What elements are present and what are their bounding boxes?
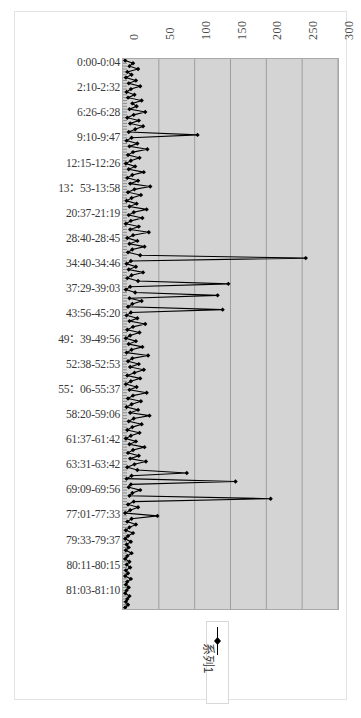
data-point-marker (133, 290, 137, 294)
chart-plot-svg (123, 59, 338, 609)
data-point-marker (125, 116, 129, 120)
data-point-marker (132, 462, 136, 466)
category-axis-tick: 0:00-0:04 (77, 57, 120, 68)
data-point-marker (123, 511, 127, 515)
category-axis-tick: 37:29-39:03 (66, 283, 120, 294)
data-point-marker (131, 150, 135, 154)
data-point-marker (134, 339, 138, 343)
data-point-marker (129, 219, 133, 223)
data-point-marker (185, 471, 189, 475)
data-point-marker (140, 345, 144, 349)
data-point-marker (124, 476, 128, 480)
value-axis-top: 050100150200250300 (0, 0, 361, 44)
data-point-marker (142, 170, 146, 174)
data-point-marker (146, 353, 150, 357)
data-point-marker (134, 522, 138, 526)
value-axis-tick: 200 (270, 21, 285, 41)
data-point-marker (128, 121, 132, 125)
data-point-marker (123, 59, 127, 63)
data-point-marker (136, 505, 140, 509)
data-point-marker (128, 456, 132, 460)
data-point-marker (129, 158, 133, 162)
data-point-marker (127, 144, 131, 148)
data-point-marker (135, 316, 139, 320)
category-axis-tick: 79:33-79:37 (66, 535, 120, 546)
data-point-marker (124, 138, 128, 142)
data-point-marker (138, 488, 142, 492)
data-point-marker (127, 388, 131, 392)
data-point-marker (137, 362, 141, 366)
data-point-marker (129, 196, 133, 200)
data-point-marker (134, 201, 138, 205)
category-axis-tick: 61:37-61:42 (66, 434, 120, 445)
data-point-marker (220, 307, 224, 311)
data-point-marker (141, 124, 145, 128)
data-point-marker (127, 267, 131, 271)
data-point-marker (137, 454, 141, 458)
category-axis-tick: 20:37-21:19 (66, 208, 120, 219)
data-point-marker (124, 75, 128, 79)
legend-series-label: 系列1 (201, 643, 218, 674)
data-point-marker (124, 161, 128, 165)
category-axis-tick: 49：39-49:56 (58, 334, 120, 345)
data-point-marker (128, 181, 132, 185)
data-point-marker (127, 342, 131, 346)
data-point-marker (195, 133, 199, 137)
data-point-marker (143, 110, 147, 114)
data-point-marker (137, 224, 141, 228)
data-point-marker (131, 325, 135, 329)
data-point-marker (127, 130, 131, 134)
data-point-marker (131, 393, 135, 397)
category-axis-tick: 58:20-59:06 (66, 409, 120, 420)
data-point-marker (136, 179, 140, 183)
data-point-marker (131, 233, 135, 237)
data-point-marker (125, 465, 129, 469)
data-point-marker (135, 239, 139, 243)
data-point-marker (233, 479, 237, 483)
data-point-marker (129, 348, 133, 352)
category-axis-tick: 55：06-55:37 (58, 384, 120, 395)
data-point-marker (125, 236, 129, 240)
category-axis-tick: 9:10-9:47 (77, 132, 120, 143)
data-point-marker (131, 448, 135, 452)
data-point-marker (130, 425, 134, 429)
data-point-marker (132, 113, 136, 117)
category-axis-tick: 28:40-28:45 (66, 233, 120, 244)
data-point-marker (127, 442, 131, 446)
category-axis-tick: 2:10-2:32 (77, 82, 120, 93)
data-point-marker (226, 282, 230, 286)
data-point-marker (144, 207, 148, 211)
data-point-marker (136, 408, 140, 412)
data-point-marker (135, 468, 139, 472)
data-point-marker (142, 445, 146, 449)
data-point-marker (142, 244, 146, 248)
series-line (125, 60, 306, 607)
data-point-marker (142, 368, 146, 372)
category-axis-tick: 63:31-63:42 (66, 459, 120, 470)
data-point-marker (148, 184, 152, 188)
plot-area (122, 58, 339, 610)
data-point-marker (139, 193, 143, 197)
data-point-marker (137, 431, 141, 435)
data-point-marker (127, 107, 131, 111)
data-point-marker (138, 84, 142, 88)
data-point-marker (125, 373, 129, 377)
category-axis-tick: 13：53-13:58 (58, 183, 120, 194)
data-point-marker (124, 436, 128, 440)
data-point-marker (137, 156, 141, 160)
data-point-marker (134, 385, 138, 389)
data-point-marker (126, 396, 130, 400)
data-point-marker (132, 187, 136, 191)
data-point-marker (127, 319, 131, 323)
data-point-marker (139, 98, 143, 102)
data-point-marker (129, 402, 133, 406)
data-point-marker (140, 216, 144, 220)
value-axis-tick: 300 (342, 21, 357, 41)
category-axis-tick: 69:09-69:56 (66, 484, 120, 495)
data-point-marker (144, 391, 148, 395)
data-point-marker (129, 136, 133, 140)
data-point-marker (128, 227, 132, 231)
data-point-marker (126, 153, 130, 157)
chart-screenshot: 050100150200250300 0:00-0:042:10-2:326:2… (0, 0, 361, 718)
data-point-marker (127, 81, 131, 85)
